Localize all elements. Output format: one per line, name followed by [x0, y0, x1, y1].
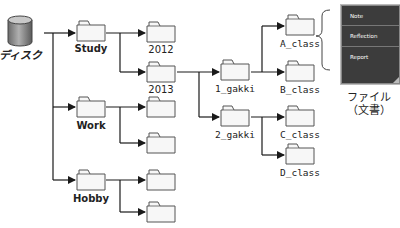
folder-label-2-gakki: 2_gakki — [215, 129, 255, 140]
folder-icon-2012[interactable] — [147, 22, 175, 42]
file-item-report[interactable]: Report — [342, 47, 399, 67]
folder-label-work: Work — [76, 120, 105, 131]
folder-label-1-gakki: 1_gakki — [215, 83, 255, 94]
file-document-panel: Note Reflection Report — [341, 5, 400, 84]
folder-label-2013: 2013 — [148, 84, 173, 95]
folder-label-a-class: A_class — [280, 38, 320, 49]
folder-icon-b-class[interactable] — [286, 61, 314, 81]
folder-label-d-class: D_class — [280, 167, 320, 178]
file-item-note[interactable]: Note — [342, 6, 399, 26]
disk-cylinder-icon — [8, 16, 32, 46]
folder-icon-c-class[interactable] — [286, 106, 314, 126]
folder-icon-2-gakki[interactable] — [221, 106, 249, 126]
folder-icon-d-class[interactable] — [286, 144, 314, 164]
folder-icon-work-child-1[interactable] — [147, 97, 175, 117]
folder-icon-hobby[interactable] — [77, 170, 105, 190]
folder-label-2012: 2012 — [148, 44, 173, 55]
file-caption-line2: （文書） — [347, 101, 391, 117]
page-fold-icon — [393, 77, 399, 83]
folder-label-b-class: B_class — [280, 84, 320, 95]
folder-label-hobby: Hobby — [73, 193, 109, 204]
folder-icon-a-class[interactable] — [286, 15, 314, 35]
folder-icon-study[interactable] — [77, 21, 105, 41]
folder-icon-work[interactable] — [77, 97, 105, 117]
folder-label-c-class: C_class — [280, 129, 320, 140]
folder-icon-hobby-child-1[interactable] — [147, 170, 175, 190]
folder-label-study: Study — [75, 43, 108, 54]
folder-icon-1-gakki[interactable] — [221, 60, 249, 80]
file-item-reflection[interactable]: Reflection — [342, 26, 399, 47]
folder-icon-hobby-child-2[interactable] — [147, 202, 175, 222]
folder-icon-work-child-2[interactable] — [147, 133, 175, 153]
folder-icon-2013[interactable] — [147, 62, 175, 82]
disk-label: ディスク — [0, 46, 42, 62]
